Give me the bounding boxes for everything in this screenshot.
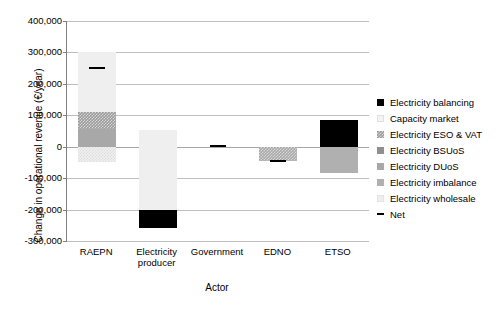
x-tick-label: EDNO: [245, 246, 309, 257]
y-tick-label: 100,000: [8, 110, 62, 120]
bar-segment[interactable]: [320, 120, 358, 147]
chart-legend: Electricity balancingCapacity marketElec…: [377, 94, 497, 222]
legend-label: Electricity BSUoS: [390, 145, 464, 156]
bar-group[interactable]: [127, 21, 187, 241]
net-marker: [331, 144, 347, 146]
legend-swatch-icon: [377, 115, 384, 122]
bar-segment[interactable]: [320, 147, 358, 174]
legend-label: Electricity balancing: [390, 97, 474, 108]
legend-label: Electricity DUoS: [390, 161, 459, 172]
legend-label: Capacity market: [390, 113, 459, 124]
bar-group[interactable]: [188, 21, 248, 241]
legend-item[interactable]: Electricity ESO & VAT: [377, 126, 497, 142]
legend-swatch-icon: [377, 99, 384, 106]
x-tick-label: Electricityproducer: [125, 246, 189, 268]
x-tick-label-line: Electricity: [125, 246, 189, 257]
x-tick-label-line: ETSO: [306, 246, 370, 257]
bar-segment[interactable]: [139, 130, 177, 209]
bar-segment[interactable]: [78, 147, 116, 163]
x-axis-tick-labels: RAEPNElectricityproducerGovernmentEDNOET…: [66, 246, 368, 280]
bar-segment[interactable]: [259, 147, 297, 161]
legend-label: Electricity ESO & VAT: [390, 129, 482, 140]
y-axis-tick-labels: 400,000300,000200,000100,0000-100,000-20…: [6, 0, 62, 313]
y-tick-label: -300,000: [8, 236, 62, 246]
y-tick-label: 300,000: [8, 47, 62, 57]
legend-label: Electricity imbalance: [390, 177, 477, 188]
legend-swatch-icon: [377, 179, 384, 186]
bar-chart-figure: Change in operational revenue (€/year) 4…: [0, 0, 497, 313]
bar-segment[interactable]: [78, 112, 116, 129]
bar-segment[interactable]: [78, 129, 116, 146]
y-tick-label: -100,000: [8, 173, 62, 183]
legend-label: Electricity wholesale: [390, 193, 476, 204]
bar-group[interactable]: [309, 21, 369, 241]
net-marker: [210, 145, 226, 147]
plot-area: [66, 21, 369, 241]
legend-swatch-icon: [377, 213, 384, 215]
legend-item[interactable]: Electricity imbalance: [377, 174, 497, 190]
legend-item[interactable]: Electricity BSUoS: [377, 142, 497, 158]
x-tick-label-line: Government: [185, 246, 249, 257]
legend-item[interactable]: Capacity market: [377, 110, 497, 126]
legend-item[interactable]: Electricity wholesale: [377, 190, 497, 206]
legend-swatch-icon: [377, 195, 384, 202]
y-tick-label: 0: [8, 142, 62, 152]
x-axis-title: Actor: [66, 282, 368, 293]
y-tick-label: -200,000: [8, 205, 62, 215]
legend-item[interactable]: Electricity balancing: [377, 94, 497, 110]
x-tick-label: Government: [185, 246, 249, 257]
x-tick-label: RAEPN: [64, 246, 128, 257]
net-marker: [270, 160, 286, 162]
x-tick-label: ETSO: [306, 246, 370, 257]
net-marker: [89, 67, 105, 69]
bar-segment[interactable]: [78, 52, 116, 112]
bar-group[interactable]: [67, 21, 127, 241]
x-tick-label-line: RAEPN: [64, 246, 128, 257]
net-marker: [150, 226, 166, 228]
y-tick-label: 200,000: [8, 79, 62, 89]
x-tick-label-line: EDNO: [245, 246, 309, 257]
legend-item[interactable]: Electricity DUoS: [377, 158, 497, 174]
legend-label: Net: [390, 209, 405, 220]
y-tick-label: 400,000: [8, 16, 62, 26]
bar-group[interactable]: [248, 21, 308, 241]
legend-swatch-icon: [377, 131, 384, 138]
legend-item[interactable]: Net: [377, 206, 497, 222]
y-axis-tick-mark: [63, 241, 67, 242]
x-tick-label-line: producer: [125, 257, 189, 268]
legend-swatch-icon: [377, 163, 384, 170]
gridline: [67, 241, 369, 242]
legend-swatch-icon: [377, 147, 384, 154]
